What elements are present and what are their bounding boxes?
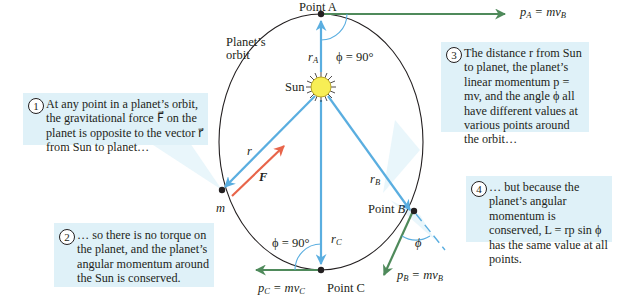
sun-label: Sun: [285, 80, 304, 94]
callout-number-2: 2: [59, 229, 75, 245]
phi-c-label: ϕ = 90°: [272, 236, 309, 250]
callout-number-1: 1: [28, 98, 44, 114]
point-a-label: Point A: [299, 0, 337, 14]
point-b-dot: [411, 208, 417, 214]
callout-number-3: 3: [446, 47, 462, 63]
callout-number-4: 4: [471, 181, 487, 197]
r-a-label: rA: [308, 50, 318, 67]
r-c-label: rC: [331, 232, 342, 249]
r-b-label: rB: [370, 172, 380, 189]
callout-3: 3 The distance r from Sun to planet, the…: [441, 42, 589, 132]
phi-a-label: ϕ = 90°: [336, 50, 373, 64]
orbit-label: Planet’s orbit: [226, 36, 266, 62]
point-b-label: Point B: [368, 202, 405, 216]
sun-icon: [306, 72, 336, 102]
planet-m-dot: [219, 187, 225, 193]
callout-text-3: The distance r from Sun to planet, the p…: [464, 46, 585, 147]
callout-text-2: … so there is no torque on the planet, a…: [77, 228, 210, 286]
callout-1: 1 At any point in a planet’s orbit, the …: [23, 93, 208, 145]
callout-text-1: At any point in a planet’s orbit, the gr…: [46, 97, 204, 155]
p-a-label: pA = mvB: [520, 5, 566, 22]
point-c-label: Point C: [327, 281, 365, 295]
phi-b-label: ϕ: [415, 236, 421, 250]
p-b-label: pB = mvB: [397, 268, 443, 285]
callout-text-4: … but because the planet’s angular momen…: [489, 180, 608, 266]
callout-4: 4 … but because the planet’s angular mom…: [466, 176, 612, 242]
f-vector-label: F⃗: [259, 170, 277, 184]
r-vector-label: r⃗: [247, 144, 262, 158]
p-c-label: pC = mvC: [258, 281, 305, 298]
planet-m-label: m: [216, 201, 225, 215]
callout-2: 2 … so there is no torque on the planet,…: [54, 223, 214, 287]
point-c-dot: [318, 267, 324, 273]
